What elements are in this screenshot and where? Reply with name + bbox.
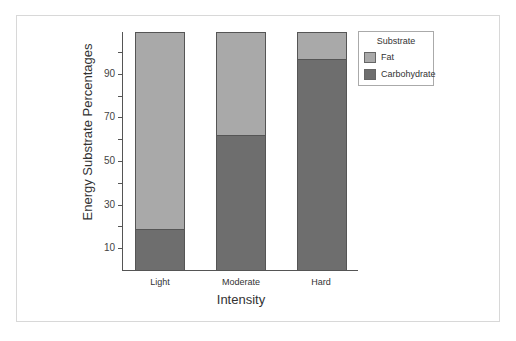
y-tick-label: 30: [91, 200, 115, 210]
bar-segment-carbohydrate: [136, 229, 184, 270]
y-tick: [118, 74, 122, 75]
y-tick: [118, 226, 122, 227]
y-tick-label: 10: [91, 243, 115, 253]
y-tick-label: 90: [91, 69, 115, 79]
legend-label-fat: Fat: [381, 52, 394, 63]
bar-segment-carbohydrate: [298, 59, 346, 270]
legend-swatch-fat: [364, 52, 376, 63]
bar-light: [135, 32, 185, 271]
legend-title: Substrate: [359, 36, 433, 46]
y-tick: [118, 248, 122, 249]
y-tick-label: 50: [91, 156, 115, 166]
y-tick: [118, 183, 122, 184]
x-tick-label-light: Light: [130, 277, 190, 287]
bar-moderate: [216, 32, 266, 271]
y-tick: [118, 205, 122, 206]
bar-hard: [297, 32, 347, 271]
bar-segment-carbohydrate: [217, 135, 265, 270]
x-axis-title: Intensity: [181, 292, 301, 307]
y-tick: [118, 161, 122, 162]
y-tick: [118, 52, 122, 53]
y-axis-line: [122, 32, 123, 271]
x-tick-label-hard: Hard: [291, 277, 351, 287]
y-axis-title: Energy Substrate Percentages: [80, 61, 95, 221]
x-tick-label-moderate: Moderate: [211, 277, 271, 287]
legend-swatch-carbohydrate: [364, 69, 376, 80]
y-tick-label: 70: [91, 112, 115, 122]
y-tick: [118, 117, 122, 118]
legend-label-carbohydrate: Carbohydrate: [381, 69, 436, 80]
y-tick: [118, 96, 122, 97]
legend: Substrate Fat Carbohydrate: [358, 31, 434, 86]
y-tick: [118, 139, 122, 140]
